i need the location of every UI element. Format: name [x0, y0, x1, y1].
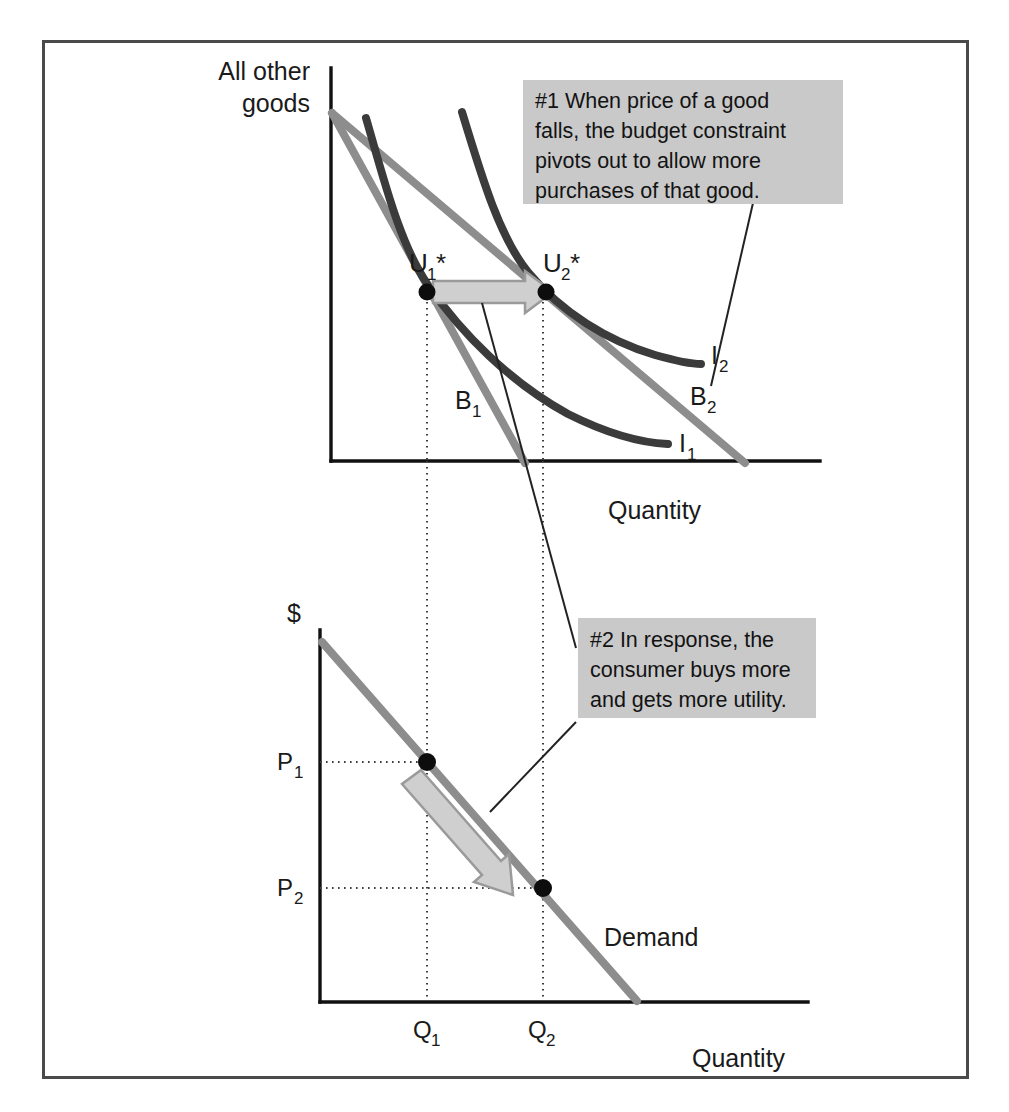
price-decrease-arrow — [402, 770, 513, 895]
annotation-2-line-1: #2 In response, the — [590, 628, 774, 652]
tick-q2-subscript: 2 — [546, 1031, 555, 1050]
annotation-1: #1 When price of a good falls, the budge… — [523, 80, 843, 386]
tick-p1-subscript: 1 — [294, 763, 303, 782]
label-b1: B 1 — [455, 386, 481, 421]
annotation-2-line-3: and gets more utility. — [590, 688, 787, 712]
annotation-1-line-1: #1 When price of a good — [535, 89, 769, 113]
label-i2-subscript: 2 — [719, 357, 728, 376]
label-u1-star: U 1 * — [409, 248, 446, 284]
label-u2-star: U 2 * — [543, 248, 580, 284]
annotation-1-line-2: falls, the budget constraint — [535, 119, 786, 143]
tick-q2-base: Q — [528, 1016, 547, 1043]
label-b2: B 2 — [690, 382, 716, 417]
tick-label-p2: P 2 — [277, 874, 303, 908]
label-i2-base: I — [711, 341, 718, 369]
label-i1-subscript: 1 — [687, 445, 696, 464]
label-b1-base: B — [455, 386, 472, 414]
upper-y-axis-label-line1: All other — [218, 57, 310, 85]
lower-y-axis-label: $ — [287, 599, 301, 627]
demand-point-1 — [418, 753, 436, 771]
tick-p2-base: P — [277, 874, 293, 901]
label-u2-base: U — [543, 248, 562, 278]
tick-label-p1: P 1 — [277, 748, 303, 782]
label-b1-subscript: 1 — [472, 402, 481, 421]
label-b2-subscript: 2 — [707, 398, 716, 417]
economics-figure: All other goods U 1 — [0, 0, 1009, 1112]
annotation-1-line-3: pivots out to allow more — [535, 149, 761, 173]
annotation-2-leader-line-lower — [490, 722, 576, 812]
label-u1-base: U — [409, 248, 428, 278]
label-demand: Demand — [604, 923, 699, 951]
label-i1-base: I — [679, 429, 686, 457]
annotation-1-leader-line — [711, 203, 753, 386]
equilibrium-point-u2 — [538, 284, 555, 301]
tick-q1-subscript: 1 — [431, 1031, 440, 1050]
annotation-2-leader-line-upper — [482, 303, 576, 648]
demand-point-2 — [534, 879, 552, 897]
label-b2-base: B — [690, 382, 707, 410]
tick-p1-base: P — [277, 748, 293, 775]
quantity-increase-arrow — [433, 271, 553, 313]
equilibrium-point-u1 — [419, 284, 436, 301]
tick-q1-base: Q — [413, 1016, 432, 1043]
label-u2-star-glyph: * — [570, 248, 580, 278]
tick-label-q1: Q 1 — [413, 1016, 440, 1050]
label-i1: I 1 — [679, 429, 696, 464]
lower-x-axis-label: Quantity — [692, 1044, 786, 1072]
tick-label-q2: Q 2 — [528, 1016, 555, 1050]
upper-x-axis-label: Quantity — [608, 496, 702, 524]
label-u1-star-glyph: * — [436, 248, 446, 278]
tick-p2-subscript: 2 — [294, 889, 303, 908]
annotation-2-line-2: consumer buys more — [590, 658, 791, 682]
annotation-1-line-4: purchases of that good. — [535, 179, 760, 203]
upper-y-axis-label-line2: goods — [242, 89, 310, 117]
